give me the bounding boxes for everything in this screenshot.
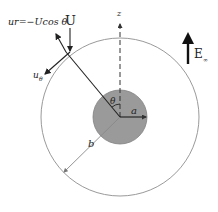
- ur-expression-label: ur=−Ucos θ: [8, 16, 68, 27]
- outer-radius-b-label: b: [88, 138, 94, 149]
- field-e-label: E: [194, 47, 203, 61]
- radial-line: [66, 52, 120, 117]
- theta-label: θ: [110, 96, 116, 106]
- z-axis-label: z: [116, 9, 122, 18]
- inner-radius-a-label: a: [131, 105, 137, 116]
- field-e-subscript: ∞: [203, 56, 208, 63]
- u-theta-subscript: θ: [39, 75, 43, 82]
- u-theta-arrow: [45, 52, 70, 74]
- radial-extension: [56, 34, 66, 52]
- diagram-canvas: ur=−Ucos θ U z E ∞ u θ θ a b: [0, 0, 218, 212]
- velocity-u-label: U: [65, 13, 76, 28]
